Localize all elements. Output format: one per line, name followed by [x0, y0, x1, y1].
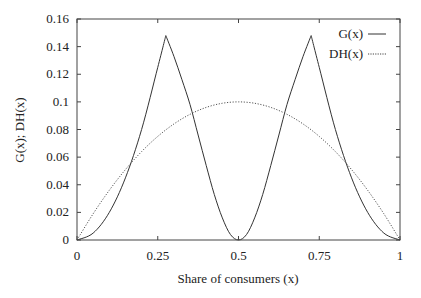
- y-tick-label: 0.08: [46, 122, 69, 137]
- y-axis-label: G(x); DH(x): [12, 97, 27, 162]
- series-g-line: [77, 36, 400, 240]
- chart-canvas: 00.020.040.060.080.10.120.140.16 00.250.…: [0, 0, 421, 298]
- x-tick-label: 0.5: [230, 248, 246, 263]
- legend-label-dh: DH(x): [329, 46, 363, 61]
- y-tick-label: 0.16: [46, 11, 69, 26]
- y-tick-label: 0.14: [46, 39, 69, 54]
- y-tick-label: 0.02: [46, 204, 69, 219]
- legend: G(x) DH(x): [329, 26, 386, 61]
- legend-label-g: G(x): [338, 26, 363, 41]
- y-tick-label: 0.04: [46, 177, 69, 192]
- x-tick-label: 1: [397, 248, 404, 263]
- y-tick-label: 0.06: [46, 149, 69, 164]
- y-tick-label: 0.1: [53, 94, 69, 109]
- x-axis-label: Share of consumers (x): [178, 271, 299, 286]
- y-tick-label: 0.12: [46, 66, 69, 81]
- series-dh-line: [77, 102, 400, 240]
- x-tick-label: 0.25: [146, 248, 169, 263]
- chart: 00.020.040.060.080.10.120.140.16 00.250.…: [0, 0, 421, 298]
- x-tick-label: 0: [74, 248, 81, 263]
- x-tick-label: 0.75: [308, 248, 331, 263]
- series-layer: [77, 36, 400, 240]
- y-tick-label: 0: [63, 232, 70, 247]
